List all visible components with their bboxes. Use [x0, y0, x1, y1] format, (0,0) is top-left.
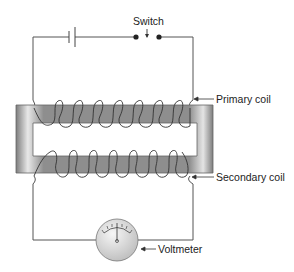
- switch-label: Switch: [133, 15, 164, 27]
- voltmeter-icon: [96, 219, 138, 261]
- secondary-coil-label: Secondary coil: [216, 171, 285, 183]
- voltmeter-label: Voltmeter: [158, 243, 203, 255]
- battery-icon: [69, 27, 75, 47]
- primary-circuit: [33, 37, 193, 108]
- transformer-diagram: Switch Pri: [0, 0, 294, 272]
- switch-icon: [133, 29, 161, 40]
- iron-core: [16, 105, 213, 173]
- primary-coil-label: Primary coil: [216, 93, 271, 105]
